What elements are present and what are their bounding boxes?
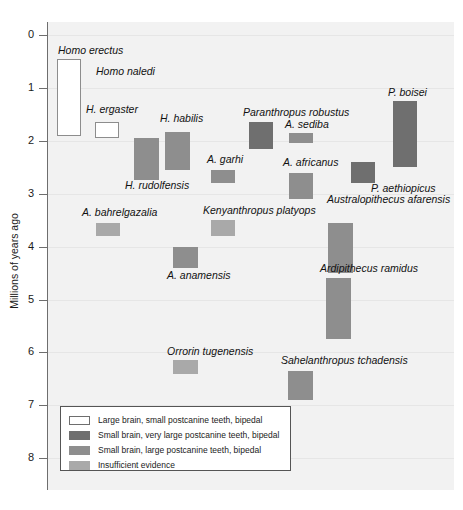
species-label: Paranthropus robustus [243, 107, 349, 118]
species-label: Homo naledi [96, 66, 155, 77]
species-label: Homo erectus [58, 45, 123, 56]
legend-label: Small brain, large postcanine teeth, bip… [98, 445, 261, 455]
tick-label-5: 5 [0, 294, 34, 305]
tick-label-1: 1 [0, 82, 34, 93]
hominin-timeline-chart: Millions of years ago 012345678 Homo ere… [0, 0, 463, 510]
species-label: A. anamensis [167, 270, 231, 281]
range-bar[interactable] [211, 170, 235, 183]
legend-row[interactable]: Small brain, very large postcanine teeth… [69, 428, 282, 442]
range-bar[interactable] [173, 247, 198, 268]
species-label: Kenyanthropus platyops [203, 205, 316, 216]
species-label: Sahelanthropus tchadensis [281, 355, 408, 366]
tick-3 [39, 194, 48, 195]
range-bar[interactable] [211, 220, 235, 236]
y-axis-title: Millions of years ago [8, 191, 20, 331]
gridline-0 [48, 35, 454, 36]
species-label: H. ergaster [86, 104, 138, 115]
gridline-5 [48, 300, 454, 301]
gridline-4 [48, 247, 454, 248]
tick-2 [39, 141, 48, 142]
range-bar[interactable] [393, 101, 417, 167]
species-label: A. africanus [283, 157, 338, 168]
tick-4 [39, 247, 48, 248]
tick-1 [39, 88, 48, 89]
legend: Large brain, small postcanine teeth, bip… [60, 406, 291, 471]
tick-0 [39, 35, 48, 36]
legend-row[interactable]: Small brain, large postcanine teeth, bip… [69, 443, 282, 457]
legend-label: Small brain, very large postcanine teeth… [98, 430, 279, 440]
legend-swatch-large-teeth [69, 446, 90, 455]
tick-label-3: 3 [0, 188, 34, 199]
range-bar[interactable] [95, 122, 119, 138]
legend-label: Large brain, small postcanine teeth, bip… [98, 415, 262, 425]
tick-6 [39, 352, 48, 353]
tick-label-2: 2 [0, 135, 34, 146]
range-bar[interactable] [326, 278, 351, 339]
tick-label-0: 0 [0, 29, 34, 40]
species-label: P. boisei [388, 87, 427, 98]
legend-label: Insufficient evidence [98, 460, 175, 470]
range-bar[interactable] [57, 59, 81, 136]
y-axis-line [47, 22, 48, 490]
tick-5 [39, 300, 48, 301]
tick-label-8: 8 [0, 452, 34, 463]
species-label: Orrorin tugenensis [167, 346, 253, 357]
tick-label-6: 6 [0, 346, 34, 357]
range-bar[interactable] [96, 223, 120, 236]
species-label: H. habilis [160, 113, 203, 124]
tick-7 [39, 405, 48, 406]
legend-swatch-large-brain [69, 416, 90, 425]
tick-label-4: 4 [0, 241, 34, 252]
range-bar[interactable] [288, 371, 313, 400]
range-bar[interactable] [249, 122, 273, 148]
range-bar[interactable] [351, 162, 375, 183]
species-label: Ardipithecus ramidus [320, 263, 418, 274]
range-bar[interactable] [165, 132, 190, 170]
range-bar[interactable] [134, 138, 159, 180]
species-label: A. sediba [285, 119, 329, 130]
range-bar[interactable] [289, 173, 313, 199]
tick-label-7: 7 [0, 399, 34, 410]
tick-8 [39, 458, 48, 459]
legend-row[interactable]: Insufficient evidence [69, 458, 282, 472]
range-bar[interactable] [289, 133, 313, 144]
legend-swatch-insufficient [69, 461, 90, 470]
range-bar[interactable] [173, 360, 198, 373]
species-label: A. garhi [207, 154, 243, 165]
species-label: H. rudolfensis [125, 180, 189, 191]
legend-swatch-very-large-teeth [69, 431, 90, 440]
species-label: Australopithecus afarensis [327, 194, 450, 205]
legend-row[interactable]: Large brain, small postcanine teeth, bip… [69, 413, 282, 427]
species-label: A. bahrelgazalia [82, 207, 157, 218]
